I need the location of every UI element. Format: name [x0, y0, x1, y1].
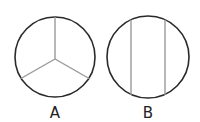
divider-a-right — [55, 59, 90, 79]
divider-a-left — [20, 59, 55, 79]
label-b: B — [138, 104, 158, 122]
figure-a — [15, 17, 95, 97]
circle-b — [107, 16, 189, 98]
figure-b — [107, 16, 189, 98]
diagram-canvas — [0, 0, 200, 122]
label-a: A — [45, 104, 65, 122]
